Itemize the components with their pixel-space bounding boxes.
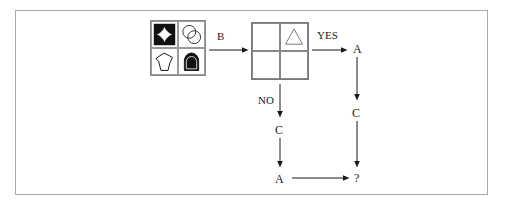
arrow-yes <box>312 46 348 54</box>
node-yes-branch-a: A <box>353 43 362 55</box>
source-cell-bottom-right <box>178 48 205 75</box>
diagram-canvas: B YES A C <box>0 0 506 208</box>
node-no-branch-a: A <box>275 173 284 185</box>
source-cell-top-right <box>178 21 205 48</box>
edge-label-transform: B <box>217 31 224 42</box>
arrow-source-to-target <box>209 46 249 54</box>
edge-label-no: NO <box>258 95 274 106</box>
node-result: ? <box>354 172 359 184</box>
node-yes-branch-c: C <box>352 107 360 119</box>
arrow-yes-c-to-result <box>353 121 361 168</box>
source-cell-top-left <box>151 21 178 48</box>
target-cell-top-left <box>252 23 280 51</box>
target-shape-grid <box>251 22 309 80</box>
source-shape-grid <box>150 20 206 76</box>
target-cell-bottom-right <box>280 51 308 79</box>
target-cell-bottom-left <box>252 51 280 79</box>
target-cell-top-right <box>280 23 308 51</box>
source-cell-bottom-left <box>151 48 178 75</box>
edge-label-yes: YES <box>317 30 338 41</box>
arrow-no-c-to-a <box>276 138 284 168</box>
node-no-branch-c: C <box>275 124 283 136</box>
arrow-no <box>276 84 284 118</box>
arrow-yes-a-to-c <box>353 57 361 101</box>
arrow-a-to-result <box>292 174 350 182</box>
